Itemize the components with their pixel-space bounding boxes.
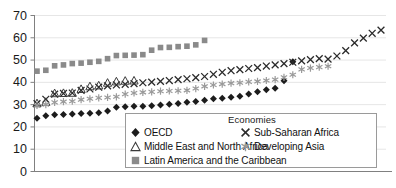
- y-tick-labels: 010203040506070: [13, 9, 27, 179]
- square-marker-icon: [130, 155, 141, 166]
- legend-item-latin-america-and-the-caribbean[interactable]: Latin America and the Caribbean: [130, 155, 287, 166]
- cross-marker-icon: [240, 127, 251, 138]
- legend-item-label: Latin America and the Caribbean: [144, 155, 287, 166]
- data-series-group: [33, 27, 385, 122]
- legend-item-label: Developing Asia: [254, 141, 324, 152]
- svg-text:60: 60: [13, 31, 27, 45]
- legend-title: Economies: [126, 114, 378, 126]
- svg-text:50: 50: [13, 53, 27, 67]
- svg-text:0: 0: [20, 165, 27, 179]
- svg-text:70: 70: [13, 9, 27, 23]
- svg-text:30: 30: [13, 98, 27, 112]
- legend-item-developing-asia[interactable]: Developing Asia: [240, 141, 324, 152]
- svg-text:10: 10: [13, 142, 27, 156]
- legend-item-sub-saharan-africa[interactable]: Sub-Saharan Africa: [240, 127, 339, 138]
- y-axis: [31, 15, 35, 172]
- triangle-marker-icon: [130, 141, 141, 152]
- legend-item-label: Sub-Saharan Africa: [254, 127, 339, 138]
- asterisk-marker-icon: [240, 141, 251, 152]
- legend-item-label: OECD: [144, 127, 173, 138]
- series-latin-america-and-the-caribbean: [34, 38, 207, 74]
- svg-text:40: 40: [13, 75, 27, 89]
- series-middle-east-and-north-africa: [33, 76, 138, 106]
- series-sub-saharan-africa: [34, 27, 385, 107]
- chart-legend: Economies OECD Sub-Saharan Africa Middle…: [125, 113, 377, 168]
- legend-item-oecd[interactable]: OECD: [130, 127, 173, 138]
- svg-text:20: 20: [13, 120, 27, 134]
- scatter-chart: 010203040506070 Economies OECD Sub-Sahar…: [0, 0, 396, 188]
- diamond-marker-icon: [130, 127, 141, 138]
- series-developing-asia: [34, 63, 331, 109]
